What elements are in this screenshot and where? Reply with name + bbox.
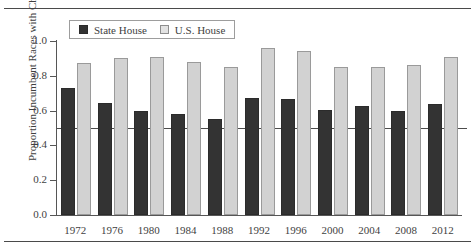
bar-us-house-2004[interactable] <box>371 67 385 215</box>
light-square-swatch <box>160 25 169 34</box>
bar-state-house-1972[interactable] <box>61 88 75 215</box>
bar-us-house-1972[interactable] <box>77 63 91 215</box>
bar-state-house-2008[interactable] <box>391 111 405 215</box>
bar-state-house-1980[interactable] <box>134 111 148 215</box>
top-divider-rule <box>4 8 471 9</box>
bar-group <box>427 41 458 215</box>
bar-group <box>97 41 128 215</box>
bar-us-house-1984[interactable] <box>187 62 201 215</box>
bar-state-house-1996[interactable] <box>281 99 295 215</box>
bar-us-house-2000[interactable] <box>334 67 348 215</box>
y-tick-label: 0.2 <box>33 174 47 185</box>
bar-group <box>170 41 201 215</box>
dark-square-swatch <box>79 25 88 34</box>
y-tick-mark <box>50 145 56 146</box>
bar-state-house-2012[interactable] <box>428 104 442 215</box>
legend-label: U.S. House <box>175 24 225 36</box>
bar-state-house-1988[interactable] <box>208 119 222 215</box>
bar-us-house-2012[interactable] <box>444 57 458 215</box>
y-tick-mark <box>50 41 56 42</box>
bar-us-house-2008[interactable] <box>407 65 421 216</box>
y-tick-mark <box>50 76 56 77</box>
bar-group <box>244 41 275 215</box>
bar-group <box>317 41 348 215</box>
bar-us-house-1992[interactable] <box>261 48 275 215</box>
bar-state-house-1976[interactable] <box>98 103 112 215</box>
y-tick-label: 0.8 <box>33 70 47 81</box>
x-axis-line <box>56 215 462 216</box>
y-tick-mark <box>50 180 56 181</box>
bar-group <box>390 41 421 215</box>
y-tick-mark <box>50 215 56 216</box>
bar-us-house-1988[interactable] <box>224 67 238 215</box>
y-axis-tick-labels: 1.00.80.60.40.20.0 <box>0 0 47 250</box>
chart-figure: Proportion Incumbent Races with Challeng… <box>0 0 475 250</box>
y-tick-label: 0.0 <box>33 209 47 220</box>
bar-group <box>280 41 311 215</box>
bar-state-house-2004[interactable] <box>355 106 369 215</box>
y-tick-label: 1.0 <box>33 35 47 46</box>
bar-us-house-1980[interactable] <box>150 57 164 215</box>
bar-group <box>60 41 91 215</box>
bar-group <box>133 41 164 215</box>
plot-area <box>57 41 461 215</box>
bar-state-house-1984[interactable] <box>171 114 185 215</box>
bar-state-house-1992[interactable] <box>245 98 259 215</box>
legend-item-us-house[interactable]: U.S. House <box>160 24 225 36</box>
bar-group <box>354 41 385 215</box>
bar-group <box>207 41 238 215</box>
bar-us-house-1976[interactable] <box>114 58 128 215</box>
y-tick-mark <box>50 111 56 112</box>
bottom-divider-rule <box>4 241 471 242</box>
y-tick-label: 0.4 <box>33 139 47 150</box>
chart-legend: State HouseU.S. House <box>69 20 235 39</box>
legend-item-state-house[interactable]: State House <box>79 24 147 36</box>
x-tick-label-2012: 2012 <box>421 224 465 236</box>
legend-label: State House <box>94 24 147 36</box>
y-tick-label: 0.6 <box>33 105 47 116</box>
bar-state-house-2000[interactable] <box>318 110 332 215</box>
bar-us-house-1996[interactable] <box>297 51 311 215</box>
